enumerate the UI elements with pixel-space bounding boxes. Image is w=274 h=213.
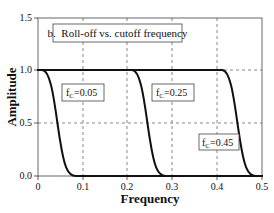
annotation-fc-0-45: fC=0.45 bbox=[199, 134, 239, 150]
annotation-value: =0.45 bbox=[210, 137, 233, 148]
roll-off-chart: 1.5 1.0 0.5 0.0 0 0.1 0.2 0.3 0.4 0.5 Fr… bbox=[0, 0, 274, 213]
y-tick-0-0: 0.0 bbox=[20, 170, 33, 181]
chart-title: b. Roll-off vs. cutoff frequency bbox=[48, 27, 188, 39]
x-tick-0-4: 0.4 bbox=[211, 181, 224, 192]
annotation-fc-0-25: fC=0.25 bbox=[152, 84, 194, 101]
annotation-value: =0.05 bbox=[74, 87, 97, 98]
chart-title-box: b. Roll-off vs. cutoff frequency bbox=[48, 24, 188, 42]
x-axis-label: Frequency bbox=[121, 191, 180, 206]
y-tick-1-0: 1.0 bbox=[20, 64, 33, 75]
annotation-value: =0.25 bbox=[164, 87, 187, 98]
x-tick-0: 0 bbox=[36, 181, 41, 192]
y-tick-0-5: 0.5 bbox=[20, 117, 33, 128]
annotation-fc-0-05: fC=0.05 bbox=[62, 84, 104, 101]
x-tick-0-1: 0.1 bbox=[77, 181, 90, 192]
y-tick-labels: 1.5 1.0 0.5 0.0 bbox=[20, 12, 33, 181]
y-tick-1-5: 1.5 bbox=[20, 12, 33, 23]
x-tick-0-5: 0.5 bbox=[256, 181, 269, 192]
y-axis-label: Amplitude bbox=[4, 67, 19, 126]
